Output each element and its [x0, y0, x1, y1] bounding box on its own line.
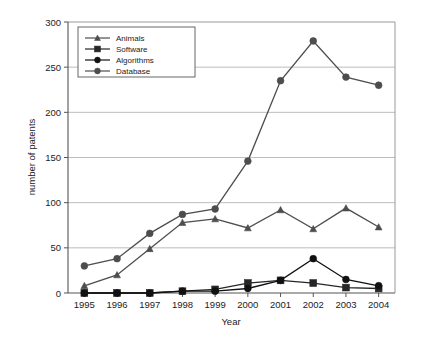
- data-point-marker: [244, 285, 251, 292]
- data-point-marker: [179, 288, 186, 295]
- data-point-marker: [277, 77, 284, 84]
- legend-item-label: Software: [116, 45, 148, 54]
- data-point-marker: [114, 255, 121, 262]
- chart-container: 050100150200250300 199519961997199819992…: [0, 0, 435, 339]
- data-point-marker: [310, 280, 317, 287]
- data-point-marker: [343, 276, 350, 283]
- x-tick-label: 2003: [335, 299, 356, 310]
- y-tick-label: 0: [56, 288, 61, 299]
- data-point-marker: [81, 263, 88, 270]
- data-point-marker: [95, 68, 101, 74]
- data-point-marker: [310, 38, 317, 45]
- data-point-marker: [244, 158, 251, 165]
- data-point-marker: [179, 211, 186, 218]
- x-tick-label: 1995: [74, 299, 95, 310]
- chart-legend: AnimalsSoftwareAlgorithmsDatabase: [78, 27, 195, 77]
- data-point-marker: [343, 74, 350, 81]
- data-point-marker: [277, 277, 284, 284]
- x-tick-label: 1996: [106, 299, 127, 310]
- data-point-marker: [343, 284, 350, 291]
- data-point-marker: [95, 57, 101, 63]
- data-point-marker: [81, 290, 88, 297]
- data-point-marker: [146, 290, 153, 297]
- data-point-marker: [375, 282, 382, 289]
- y-axis: 050100150200250300: [45, 17, 68, 299]
- y-tick-label: 150: [45, 152, 61, 163]
- line-chart: 050100150200250300 199519961997199819992…: [0, 0, 435, 339]
- x-tick-label: 1999: [205, 299, 226, 310]
- x-tick-label: 1997: [139, 299, 160, 310]
- y-axis-title: number of patents: [26, 118, 37, 195]
- x-tick-label: 2000: [237, 299, 258, 310]
- x-axis: 1995199619971998199920002001200220032004: [74, 293, 389, 310]
- y-tick-label: 100: [45, 197, 61, 208]
- data-point-marker: [114, 290, 121, 297]
- data-point-marker: [212, 206, 219, 213]
- x-tick-label: 2004: [368, 299, 389, 310]
- data-point-marker: [95, 46, 101, 52]
- y-tick-label: 300: [45, 17, 61, 28]
- legend-item-label: Database: [116, 67, 151, 76]
- x-tick-label: 2002: [303, 299, 324, 310]
- y-tick-label: 200: [45, 107, 61, 118]
- data-point-marker: [146, 230, 153, 237]
- legend-item-label: Animals: [116, 34, 144, 43]
- x-axis-title: Year: [221, 316, 240, 327]
- data-point-marker: [310, 255, 317, 262]
- y-tick-label: 50: [50, 242, 61, 253]
- legend-item-label: Algorithms: [116, 56, 154, 65]
- x-tick-label: 1998: [172, 299, 193, 310]
- x-tick-label: 2001: [270, 299, 291, 310]
- data-point-marker: [375, 82, 382, 89]
- data-point-marker: [212, 288, 219, 295]
- y-tick-label: 250: [45, 62, 61, 73]
